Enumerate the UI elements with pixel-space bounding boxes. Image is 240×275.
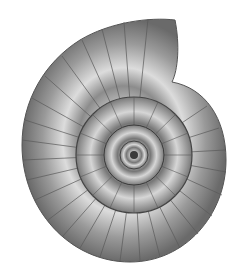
shell-center — [130, 151, 138, 159]
ammonite-shell-illustration — [0, 0, 240, 275]
